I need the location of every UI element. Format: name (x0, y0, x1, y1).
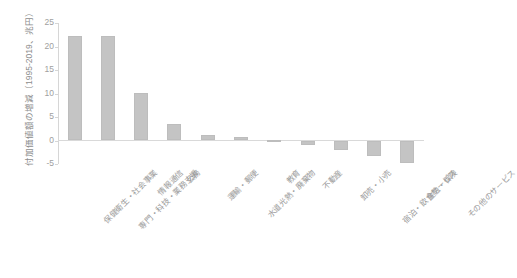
bar (400, 141, 414, 164)
x-axis-label: 卸売・小売 (359, 168, 394, 203)
y-tick-mark (55, 23, 58, 24)
y-tick-label: 15 (10, 65, 54, 74)
x-axis-labels: 保健衛生・社会事業専門・科技・業務支援情報通信公務運輸・郵便水道光熱・廃棄物教育… (0, 164, 435, 278)
y-tick-mark (55, 141, 58, 142)
x-axis-label: 金融・保険 (425, 168, 460, 203)
y-tick-mark (55, 94, 58, 95)
x-axis-label: その他のサービス (465, 168, 517, 220)
y-tick-label: 10 (10, 89, 54, 98)
y-tick-mark (55, 164, 58, 165)
y-tick-mark (55, 70, 58, 71)
y-tick-label: 5 (10, 112, 54, 121)
bar (167, 124, 181, 140)
y-tick-label: 25 (10, 18, 54, 27)
x-axis-label: 運輸・郵便 (225, 168, 260, 203)
y-tick-mark (55, 117, 58, 118)
bar (134, 93, 148, 141)
bar (301, 141, 315, 146)
bar (201, 135, 215, 141)
bar (68, 36, 82, 141)
bar (234, 137, 248, 141)
x-axis-label: 不動産 (321, 168, 344, 191)
bar (367, 141, 381, 157)
plot-area (58, 23, 424, 164)
y-tick-label: 0 (10, 136, 54, 145)
bar (267, 140, 281, 142)
bar (334, 141, 348, 150)
x-axis-label: 公務 (185, 168, 203, 186)
bar (101, 36, 115, 140)
y-tick-mark (55, 47, 58, 48)
y-tick-label: 20 (10, 42, 54, 51)
